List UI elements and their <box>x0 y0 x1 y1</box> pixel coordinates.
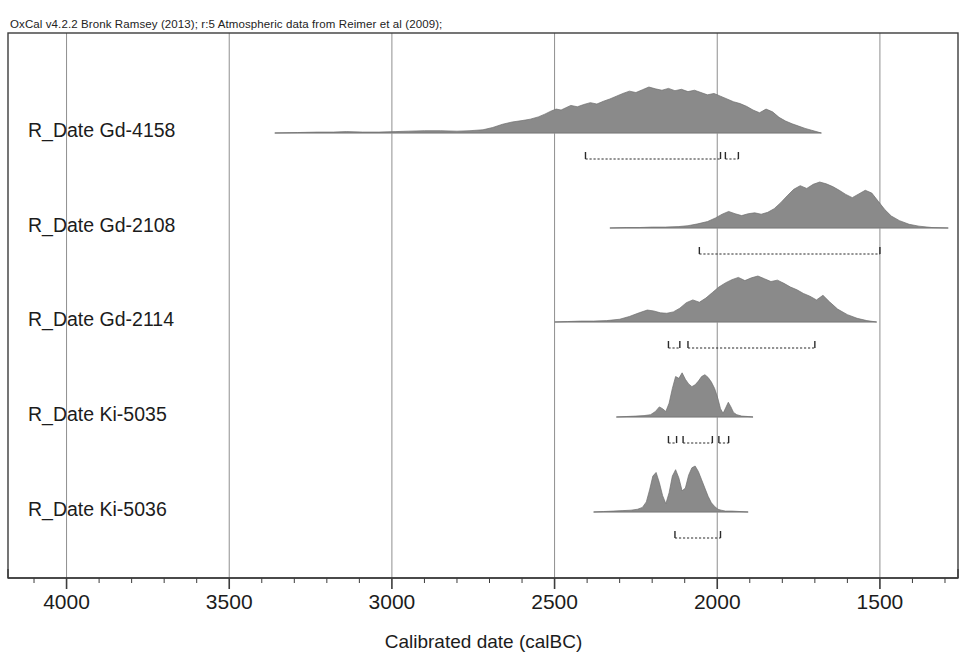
series-label-3: R_Date Gd-2114 <box>28 308 174 331</box>
probability-distribution <box>555 276 877 322</box>
plot-canvas <box>0 0 967 670</box>
x-tick-label-1500: 1500 <box>857 590 904 614</box>
range-bracket <box>683 436 712 443</box>
probability-distribution <box>616 373 753 417</box>
x-tick-label-3000: 3000 <box>369 590 416 614</box>
range-bracket <box>699 247 880 254</box>
x-tick-label-2000: 2000 <box>694 590 741 614</box>
range-bracket <box>675 531 721 538</box>
range-bracket <box>725 152 738 159</box>
distribution-series <box>275 87 948 538</box>
series-label-5: R_Date Ki-5036 <box>28 498 167 521</box>
series-label-2: R_Date Gd-2108 <box>28 214 175 237</box>
oxcal-plot: OxCal v4.2.2 Bronk Ramsey (2013); r:5 At… <box>0 0 967 670</box>
range-bracket <box>668 341 679 348</box>
series-label-4: R_Date Ki-5035 <box>28 403 167 426</box>
x-tick-label-4000: 4000 <box>43 590 90 614</box>
probability-distribution <box>275 87 822 133</box>
x-tick-label-3500: 3500 <box>206 590 253 614</box>
x-axis-title: Calibrated date (calBC) <box>0 631 967 653</box>
series-label-1: R_Date Gd-4158 <box>28 119 175 142</box>
x-tick-label-2500: 2500 <box>531 590 578 614</box>
range-bracket <box>585 152 720 159</box>
probability-distribution <box>594 466 749 512</box>
probability-distribution <box>610 182 948 228</box>
range-bracket <box>719 436 729 443</box>
x-axis <box>8 569 958 589</box>
range-bracket <box>688 341 815 348</box>
range-bracket <box>668 436 676 443</box>
